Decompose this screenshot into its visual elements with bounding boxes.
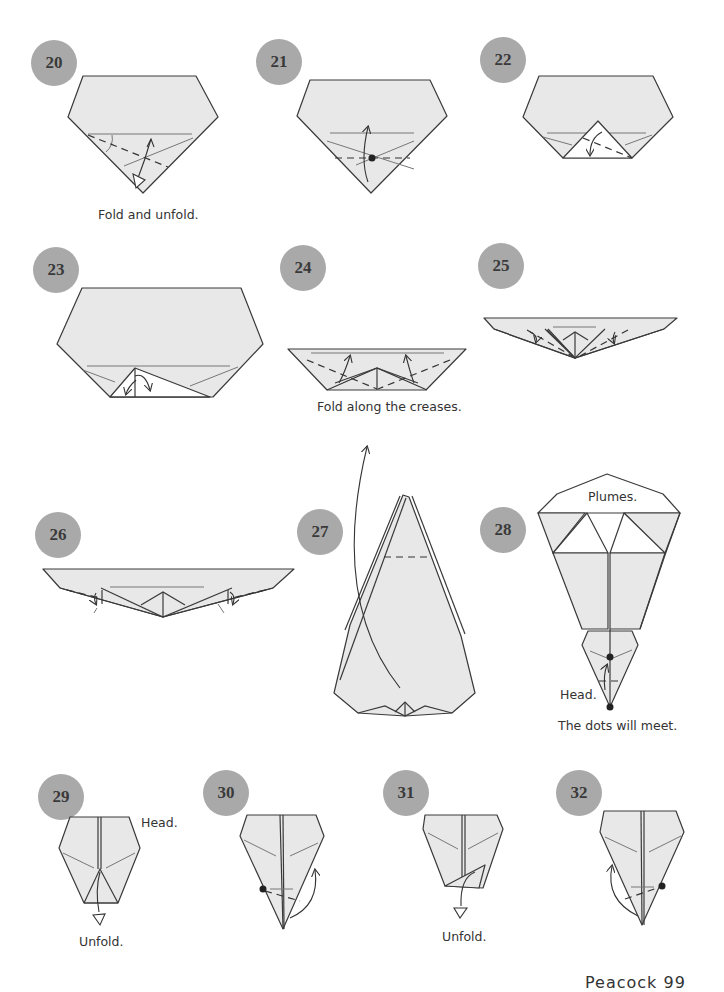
caption-step-20: Fold and unfold. <box>98 207 199 222</box>
diagram-step-21 <box>297 80 447 193</box>
diagram-step-29 <box>59 817 140 925</box>
caption-step-29: Unfold. <box>79 934 124 949</box>
label-plumes: Plumes. <box>588 489 637 504</box>
diagram-step-22 <box>523 76 673 158</box>
label-head-29: Head. <box>141 815 178 830</box>
caption-step-24: Fold along the creases. <box>317 399 462 414</box>
diagram-step-23 <box>57 288 263 397</box>
diagram-step-24 <box>288 349 466 390</box>
diagram-step-30 <box>240 815 324 929</box>
caption-step-28: The dots will meet. <box>558 718 677 733</box>
diagram-step-32 <box>600 811 684 925</box>
label-head-28: Head. <box>560 687 597 702</box>
diagram-step-26 <box>43 569 294 617</box>
diagram-step-28 <box>538 474 680 711</box>
diagram-step-25 <box>484 318 677 358</box>
diagram-step-31 <box>423 815 503 918</box>
caption-step-31: Unfold. <box>442 929 487 944</box>
diagram-step-20 <box>68 76 218 193</box>
page-footer: Peacock 99 <box>585 973 686 992</box>
diagram-step-27 <box>334 447 475 716</box>
